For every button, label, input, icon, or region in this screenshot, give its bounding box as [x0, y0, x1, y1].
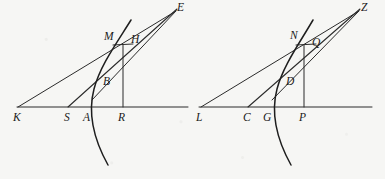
label-R: R	[117, 111, 125, 123]
label-E: E	[176, 1, 184, 13]
label-Z: Z	[361, 1, 368, 13]
label-Q: Q	[312, 36, 321, 48]
label-A: A	[82, 111, 91, 123]
label-B: B	[103, 75, 110, 87]
label-P: P	[298, 111, 306, 123]
label-L: L	[195, 111, 202, 123]
label-H: H	[130, 33, 140, 45]
label-S: S	[64, 111, 70, 123]
label-K: K	[12, 111, 22, 123]
label-M: M	[103, 30, 115, 42]
label-D: D	[285, 75, 295, 87]
label-C: C	[243, 111, 251, 123]
figure-root: KSARBMHELCGPDNQZ	[0, 0, 385, 179]
geometry-figure: KSARBMHELCGPDNQZ	[0, 0, 385, 179]
figure-background	[0, 0, 385, 179]
label-G: G	[263, 111, 272, 123]
label-N: N	[289, 29, 299, 41]
